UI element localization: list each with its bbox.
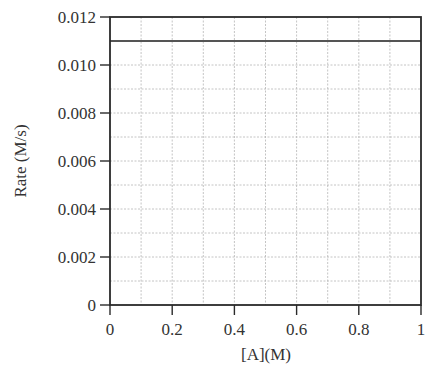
chart: 00.0020.0040.0060.0080.0100.012 00.20.40…	[0, 0, 432, 386]
y-tick-label: 0	[88, 296, 97, 315]
y-tick-label: 0.004	[58, 200, 97, 219]
x-tick-label: 0.8	[348, 320, 369, 339]
y-tick-label: 0.008	[58, 104, 96, 123]
y-tick-label: 0.010	[58, 56, 96, 75]
x-tick-label: 0.6	[286, 320, 307, 339]
x-axis-ticks: 00.20.40.60.81	[106, 305, 426, 339]
x-tick-label: 0	[106, 320, 115, 339]
x-tick-label: 0.4	[224, 320, 246, 339]
y-tick-label: 0.012	[58, 8, 96, 27]
y-axis-ticks: 00.0020.0040.0060.0080.0100.012	[58, 8, 110, 315]
y-tick-label: 0.006	[58, 152, 96, 171]
grid-lines	[110, 17, 421, 305]
y-tick-label: 0.002	[58, 248, 96, 267]
x-tick-label: 0.2	[162, 320, 183, 339]
y-axis-title: Rate (M/s)	[11, 124, 30, 197]
x-axis-title: [A](M)	[241, 345, 291, 364]
x-tick-label: 1	[417, 320, 426, 339]
